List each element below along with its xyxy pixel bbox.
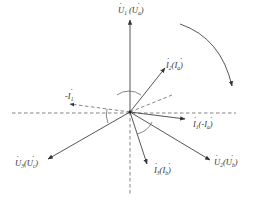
label-u2: U2(Ub) · · — [214, 150, 238, 168]
svg-text:·: · — [167, 53, 169, 63]
svg-text:·: · — [32, 151, 34, 161]
svg-text:·: · — [210, 112, 212, 122]
svg-text:·: · — [17, 151, 19, 161]
label-neg-i1: -I1 · — [65, 84, 74, 102]
svg-text:·: · — [231, 150, 233, 160]
svg-text:·: · — [155, 158, 157, 168]
phasor-diagram: U1 (Ua) · · I2(Ia) · · -I1 · I1(-Ia) · ·… — [0, 0, 259, 200]
label-i2: I2(Ia) · · — [165, 53, 183, 71]
svg-text:·: · — [216, 150, 218, 160]
svg-text:·: · — [168, 158, 170, 168]
phasor-i3 — [130, 112, 147, 164]
angle-arcs — [106, 91, 152, 134]
svg-text:·: · — [180, 53, 182, 63]
labels: U1 (Ua) · · I2(Ia) · · -I1 · I1(-Ia) · ·… — [15, 0, 238, 176]
phasor-neg-i1 — [70, 104, 130, 112]
origin-point — [129, 111, 132, 114]
angle-arc-neg-i1 — [106, 109, 108, 123]
svg-text:·: · — [120, 0, 122, 8]
label-i3: I3(Ib) · · — [153, 158, 171, 176]
phasor-u3 — [48, 112, 130, 159]
svg-text:·: · — [138, 0, 140, 8]
angle-arc-u1-i2 — [117, 91, 141, 95]
svg-text:·: · — [194, 112, 196, 122]
svg-text:·: · — [71, 84, 73, 94]
label-u3: U3(Uc) · · — [15, 151, 38, 169]
svg-text:U1 (Ua): U1 (Ua) — [118, 5, 144, 16]
phasor-i2 — [130, 68, 165, 112]
label-u1: U1 (Ua) · · — [118, 0, 144, 16]
rotation-arrow-clockwise — [180, 24, 232, 86]
label-i1: I1(-Ia) · · — [192, 112, 213, 130]
reference-axes — [12, 95, 236, 195]
